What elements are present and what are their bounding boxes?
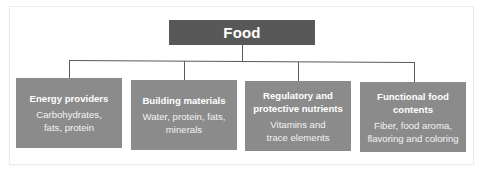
child-node-title: Energy providers	[30, 92, 109, 105]
desc-line: Carbohydrates,	[36, 108, 102, 121]
title-line: Regulatory and	[253, 89, 343, 102]
desc-line: Fiber, food aroma,	[367, 119, 458, 132]
title-text: Building materials	[142, 95, 225, 106]
title-text: Energy providers	[30, 93, 109, 104]
desc-line: fats, protein	[36, 121, 102, 134]
child-node-title: Regulatory and protective nutrients	[253, 89, 343, 115]
desc-line: Water, protein, fats,	[143, 110, 226, 123]
child-node-title: Functional food contents	[377, 90, 449, 116]
connector-child-4	[414, 62, 415, 82]
root-node-food: Food	[169, 20, 315, 45]
root-node-label: Food	[223, 24, 260, 41]
desc-line: trace elements	[267, 131, 330, 144]
child-node-description: Fiber, food aroma, flavoring and colorin…	[367, 119, 458, 145]
title-line: Functional food	[377, 90, 449, 103]
title-line: protective nutrients	[253, 102, 343, 115]
title-line: contents	[377, 103, 449, 116]
child-node-description: Carbohydrates, fats, protein	[36, 108, 102, 134]
child-node-regulatory-protective-nutrients: Regulatory and protective nutrients Vita…	[245, 81, 351, 151]
child-node-description: Water, protein, fats, minerals	[143, 110, 226, 136]
connector-child-2	[184, 61, 185, 80]
connector-root-stem	[242, 45, 243, 62]
desc-line: minerals	[143, 123, 226, 136]
desc-line: Vitamins and	[267, 118, 330, 131]
desc-line: flavoring and coloring	[367, 132, 458, 145]
child-node-description: Vitamins and trace elements	[267, 118, 330, 144]
connector-child-1	[69, 60, 70, 78]
child-node-energy-providers: Energy providers Carbohydrates, fats, pr…	[16, 78, 122, 148]
connector-child-3	[298, 62, 299, 81]
child-node-building-materials: Building materials Water, protein, fats,…	[131, 80, 237, 150]
child-node-functional-food-contents: Functional food contents Fiber, food aro…	[360, 82, 466, 152]
child-node-title: Building materials	[142, 94, 225, 107]
